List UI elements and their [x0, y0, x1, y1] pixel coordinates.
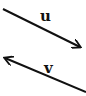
vector-diagram: u v: [0, 0, 86, 96]
vector-v: v: [5, 58, 86, 92]
vector-u-label: u: [40, 7, 51, 25]
vector-v-label: v: [43, 59, 54, 77]
vector-u: u: [3, 7, 80, 47]
